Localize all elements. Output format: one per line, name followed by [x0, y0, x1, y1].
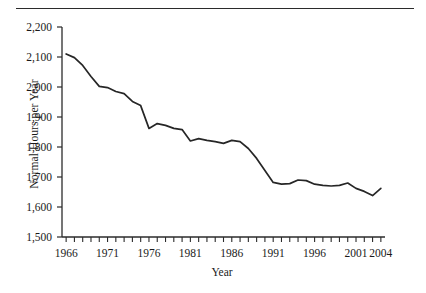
axes-group — [57, 27, 385, 242]
figure-container: Normal Hours per Year 2,2002,1002,0001,9… — [0, 0, 426, 293]
x-axis-ticks — [66, 237, 381, 242]
y-axis-ticks — [57, 27, 62, 237]
line-chart-plot — [0, 0, 426, 293]
data-series-line — [66, 54, 381, 196]
